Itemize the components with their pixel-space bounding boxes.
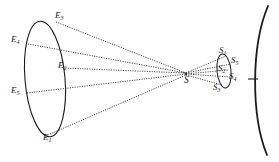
ray-E5-to-S xyxy=(27,74,186,93)
label-S5: S5 xyxy=(231,56,239,65)
diagram-canvas xyxy=(0,0,279,162)
label-S-vertex: S xyxy=(184,76,189,86)
label-S3: S3 xyxy=(213,83,221,92)
ray-E2-to-S xyxy=(63,68,186,73)
ray-S-to-S4 xyxy=(186,74,230,77)
ray-E1-to-S xyxy=(50,75,186,134)
label-E4: E4 xyxy=(11,35,20,44)
ray-E4-to-S xyxy=(28,44,186,73)
ray-diagram-figure: E3 E4 E2 E5 E1 S S1 S5 S2 S4 S3 xyxy=(0,0,279,162)
label-S4: S4 xyxy=(229,72,237,81)
incident-ray-bundle xyxy=(27,22,186,134)
mirror-arc xyxy=(255,6,268,155)
object-ellipse xyxy=(20,19,70,138)
label-E5: E5 xyxy=(11,86,20,95)
label-E1: E1 xyxy=(43,133,52,142)
label-S2: S2 xyxy=(218,64,226,73)
label-E2: E2 xyxy=(58,61,67,70)
label-E3: E3 xyxy=(55,11,64,20)
label-S1: S1 xyxy=(219,46,227,55)
ray-E3-to-S xyxy=(56,22,186,73)
